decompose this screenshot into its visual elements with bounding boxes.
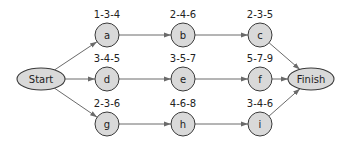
node-label-e: e xyxy=(180,74,186,85)
node-label-a: a xyxy=(104,30,110,41)
time-estimate-f: 5-7-9 xyxy=(247,53,273,64)
node-label-h: h xyxy=(180,119,186,130)
activity-node-c: 2-3-5c xyxy=(247,9,273,47)
finish-label: Finish xyxy=(297,74,325,85)
activity-node-e: 3-5-7e xyxy=(170,53,196,91)
node-label-i: i xyxy=(259,119,262,130)
edge-start-to-g xyxy=(54,88,97,117)
edge-i-to-finish xyxy=(269,89,300,116)
node-label-f: f xyxy=(258,74,262,85)
time-estimate-b: 2-4-6 xyxy=(170,9,196,20)
node-label-b: b xyxy=(180,30,186,41)
node-label-c: c xyxy=(257,30,263,41)
activity-node-a: 1-3-4a xyxy=(94,9,120,47)
node-label-d: d xyxy=(104,74,110,85)
activity-node-h: 4-6-8h xyxy=(170,98,196,136)
finish-node: Finish xyxy=(288,68,334,90)
edge-c-to-finish xyxy=(269,43,300,70)
time-estimate-i: 3-4-6 xyxy=(247,98,273,109)
start-node: Start xyxy=(17,68,65,90)
activity-node-b: 2-4-6b xyxy=(170,9,196,47)
node-label-g: g xyxy=(104,119,110,130)
nodes-group: 1-3-4a2-4-6b2-3-5c3-4-5d3-5-7e5-7-9f2-3-… xyxy=(94,9,273,136)
time-estimate-c: 2-3-5 xyxy=(247,9,273,20)
activity-node-f: 5-7-9f xyxy=(247,53,273,91)
time-estimate-e: 3-5-7 xyxy=(170,53,196,64)
activity-node-g: 2-3-6g xyxy=(94,98,120,136)
edge-start-to-a xyxy=(55,42,97,70)
activity-node-d: 3-4-5d xyxy=(94,53,120,91)
activity-node-i: 3-4-6i xyxy=(247,98,273,136)
pert-diagram: StartFinish 1-3-4a2-4-6b2-3-5c3-4-5d3-5-… xyxy=(0,0,354,146)
time-estimate-a: 1-3-4 xyxy=(94,9,120,20)
time-estimate-d: 3-4-5 xyxy=(94,53,120,64)
time-estimate-h: 4-6-8 xyxy=(170,98,196,109)
time-estimate-g: 2-3-6 xyxy=(94,98,120,109)
start-label: Start xyxy=(29,74,54,85)
